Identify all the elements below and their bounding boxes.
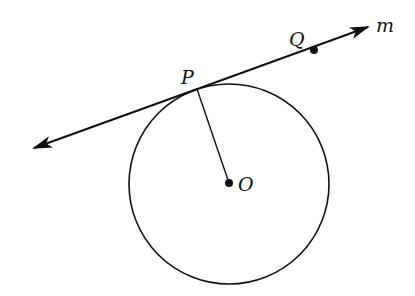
radius-op [197, 89, 229, 183]
label-q: Q [289, 28, 305, 50]
geometry-diagram: P Q O m [0, 0, 415, 296]
point-o [225, 179, 233, 187]
label-m: m [376, 14, 394, 36]
tangent-line-m-left [34, 88, 200, 148]
point-q [310, 46, 318, 54]
label-p: P [180, 66, 195, 88]
label-o: O [238, 173, 254, 195]
tangent-line-m [200, 27, 368, 88]
